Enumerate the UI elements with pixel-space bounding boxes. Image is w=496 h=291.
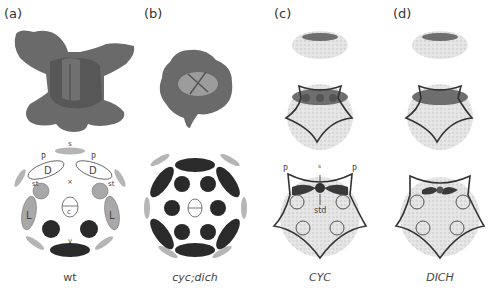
svg-text:st: st (108, 180, 115, 188)
ventral-petal (50, 243, 90, 257)
cyc-dich-flower-photo (160, 50, 233, 128)
panel-label-a: (a) (4, 6, 22, 21)
svg-text:P: P (283, 165, 288, 174)
svg-text:s: s (68, 140, 72, 148)
caption-dich: DICH (400, 271, 480, 284)
svg-text:v: v (68, 237, 72, 245)
svg-text:s: s (318, 162, 321, 169)
svg-text:L: L (26, 210, 32, 221)
figure-canvas: s P D P D st st L L × c v (0, 0, 496, 291)
svg-text:D: D (44, 165, 52, 176)
svg-text:×: × (67, 178, 73, 186)
svg-text:st: st (32, 180, 39, 188)
svg-text:c: c (67, 208, 71, 216)
svg-text:std: std (314, 206, 326, 215)
svg-text:L: L (109, 210, 115, 221)
sepal-dorsal (55, 148, 85, 155)
svg-text:P: P (91, 153, 96, 162)
wt-flower-photo (15, 30, 135, 132)
svg-text:D: D (89, 165, 97, 176)
svg-text:P: P (41, 153, 46, 162)
caption-wt: wt (30, 271, 110, 284)
wt-floral-diagram: s P D P D st st L L × c v (12, 140, 127, 257)
cyc-dich-floral-diagram (144, 152, 247, 260)
cyc-expression-diagrams: s P P std (274, 31, 366, 258)
panel-label-c: (c) (274, 6, 291, 21)
svg-text:P: P (352, 165, 357, 174)
dich-expression-diagrams (396, 31, 484, 258)
caption-cyc: CYC (280, 271, 360, 284)
caption-cyc-dich: cyc;dich (155, 271, 235, 284)
panel-label-b: (b) (144, 6, 162, 21)
panel-label-d: (d) (393, 6, 411, 21)
